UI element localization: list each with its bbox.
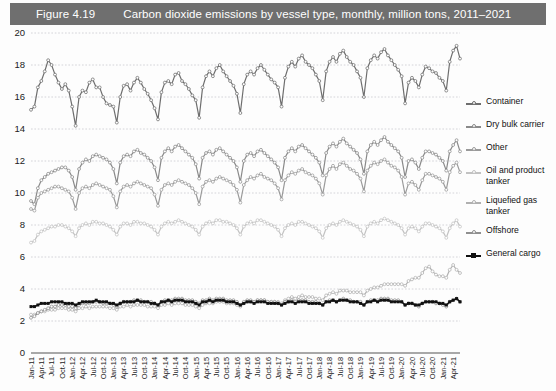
data-point-marker (393, 283, 396, 286)
data-point-marker (88, 81, 91, 84)
data-point-marker (30, 108, 33, 111)
data-point-marker (54, 305, 57, 308)
data-point-marker (184, 83, 187, 86)
data-point-marker (139, 222, 142, 225)
legend-item[interactable]: Offshore (466, 225, 556, 239)
data-point-marker (157, 118, 160, 121)
data-point-marker (266, 73, 269, 76)
data-point-marker (376, 222, 379, 225)
data-point-marker (290, 296, 293, 299)
data-point-marker (36, 196, 39, 199)
data-point-marker (74, 208, 77, 211)
data-point-marker (36, 187, 39, 190)
data-point-marker (421, 73, 424, 76)
data-point-marker (256, 150, 259, 153)
data-point-marker (332, 291, 335, 294)
data-point-marker (376, 144, 379, 147)
x-axis-tick-label: Jul-13 (130, 357, 139, 377)
data-point-marker (448, 60, 451, 63)
data-point-marker (47, 302, 50, 305)
data-point-marker (445, 304, 448, 307)
data-point-marker (36, 312, 39, 315)
data-point-marker (386, 161, 389, 164)
data-point-marker (428, 300, 431, 303)
data-point-marker (445, 276, 448, 279)
legend-item[interactable]: Other (466, 142, 556, 156)
data-point-marker (122, 305, 125, 308)
data-point-marker (205, 180, 208, 183)
legend-item[interactable]: Liquefied gas tanker (466, 195, 556, 216)
y-axis-tick-label: 16 (14, 91, 25, 102)
legend-point-swatch (472, 124, 476, 128)
data-point-marker (338, 52, 341, 55)
data-point-marker (253, 155, 256, 158)
data-point-marker (177, 72, 180, 75)
data-point-marker (407, 280, 410, 283)
data-point-marker (211, 75, 214, 78)
data-point-marker (356, 152, 359, 155)
data-point-marker (459, 300, 462, 303)
data-point-marker (191, 304, 194, 307)
legend-item[interactable]: Oil and product tanker (466, 165, 556, 186)
data-point-marker (67, 305, 70, 308)
data-point-marker (235, 302, 238, 305)
data-point-marker (249, 300, 252, 303)
data-point-marker (84, 158, 87, 161)
data-point-marker (74, 235, 77, 238)
data-point-marker (194, 192, 197, 195)
data-point-marker (43, 308, 46, 311)
x-axis-tick-label: Jan-12 (68, 357, 77, 380)
data-point-marker (287, 300, 290, 303)
data-point-marker (386, 140, 389, 143)
data-point-marker (232, 84, 235, 87)
data-point-marker (390, 164, 393, 167)
data-point-marker (366, 150, 369, 153)
data-point-marker (81, 187, 84, 190)
data-point-marker (290, 171, 293, 174)
data-point-marker (84, 300, 87, 303)
data-point-marker (246, 222, 249, 225)
data-point-marker (187, 88, 190, 91)
data-point-marker (71, 302, 74, 305)
data-point-marker (222, 220, 225, 223)
data-point-marker (338, 299, 341, 302)
data-point-marker (345, 299, 348, 302)
data-point-marker (105, 187, 108, 190)
data-point-marker (40, 80, 43, 83)
data-point-marker (342, 49, 345, 52)
data-point-marker (369, 222, 372, 225)
legend-item-label: Dry bulk carrier (486, 119, 544, 130)
data-point-marker (36, 86, 39, 89)
legend-marker-icon (466, 167, 481, 179)
data-point-marker (376, 57, 379, 60)
data-point-marker (242, 83, 245, 86)
data-point-marker (102, 305, 105, 308)
data-point-marker (424, 267, 427, 270)
data-point-marker (321, 99, 324, 102)
data-point-marker (88, 224, 91, 227)
data-point-marker (211, 153, 214, 156)
data-point-marker (98, 86, 101, 89)
data-point-marker (256, 219, 259, 222)
data-point-marker (191, 300, 194, 303)
data-point-marker (98, 300, 101, 303)
data-point-marker (225, 179, 228, 182)
data-point-marker (297, 300, 300, 303)
data-point-marker (78, 307, 81, 310)
data-point-marker (383, 217, 386, 220)
data-point-marker (71, 230, 74, 233)
data-point-marker (393, 64, 396, 67)
legend-item[interactable]: Dry bulk carrier (466, 119, 556, 133)
data-point-marker (232, 300, 235, 303)
data-point-marker (163, 81, 166, 84)
legend-item[interactable]: General cargo (466, 248, 556, 262)
data-point-marker (98, 184, 101, 187)
legend-item[interactable]: Container (466, 96, 556, 110)
data-point-marker (328, 224, 331, 227)
data-point-marker (362, 235, 365, 238)
data-point-marker (81, 89, 84, 92)
data-point-marker (441, 275, 444, 278)
data-point-marker (277, 166, 280, 169)
data-point-marker (218, 176, 221, 179)
legend-marker-icon (466, 121, 481, 133)
